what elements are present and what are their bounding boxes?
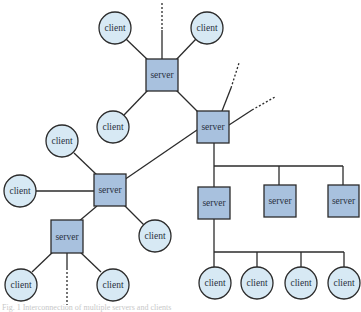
client-label: client	[196, 23, 217, 33]
server-label: server	[201, 122, 225, 132]
link-line	[124, 130, 197, 180]
link-line	[229, 110, 252, 125]
client-label: client	[144, 231, 165, 241]
client-node: client	[285, 267, 317, 299]
client-label: client	[290, 278, 311, 288]
server-node: server	[94, 174, 126, 206]
server-node: server	[198, 187, 230, 219]
client-label: client	[204, 278, 225, 288]
link-line	[74, 153, 98, 176]
client-label: client	[9, 186, 30, 196]
link-line	[222, 88, 231, 111]
client-node: client	[139, 220, 171, 252]
client-label: client	[246, 278, 267, 288]
server-label: server	[332, 196, 356, 206]
client-label: client	[333, 278, 354, 288]
server-label: server	[150, 70, 174, 80]
dotted-link-line	[252, 97, 275, 110]
network-diagram: serverserverserverserverserverserverserv…	[0, 0, 361, 312]
link-line	[124, 88, 150, 115]
client-label: client	[102, 280, 123, 290]
client-node: client	[241, 267, 273, 299]
server-label: server	[98, 185, 122, 195]
figure-caption: Fig. 1 Interconnection of multiple serve…	[2, 303, 171, 312]
server-node: server	[146, 59, 178, 91]
client-label: client	[102, 122, 123, 132]
client-nodes: clientclientclientclientclientclientclie…	[4, 12, 360, 301]
server-label: server	[268, 196, 292, 206]
server-label: server	[55, 232, 79, 242]
client-node: client	[191, 12, 223, 44]
dotted-link-line	[231, 63, 239, 88]
client-node: client	[97, 111, 129, 143]
client-node: client	[46, 125, 78, 157]
link-line	[174, 88, 200, 114]
server-nodes: serverserverserverserverserverserverserv…	[51, 59, 359, 253]
dotted-links	[67, 3, 275, 305]
link-line	[124, 205, 144, 225]
client-node: client	[199, 267, 231, 299]
client-node: client	[97, 269, 129, 301]
client-node: client	[99, 12, 131, 44]
client-node: client	[4, 175, 36, 207]
server-node: server	[51, 220, 83, 253]
server-node: server	[197, 111, 229, 143]
server-node: server	[328, 185, 359, 217]
server-node: server	[264, 185, 296, 217]
client-node: client	[5, 269, 37, 301]
client-node: client	[328, 267, 360, 299]
server-label: server	[202, 198, 226, 208]
client-label: client	[10, 280, 31, 290]
client-label: client	[51, 136, 72, 146]
client-label: client	[104, 23, 125, 33]
